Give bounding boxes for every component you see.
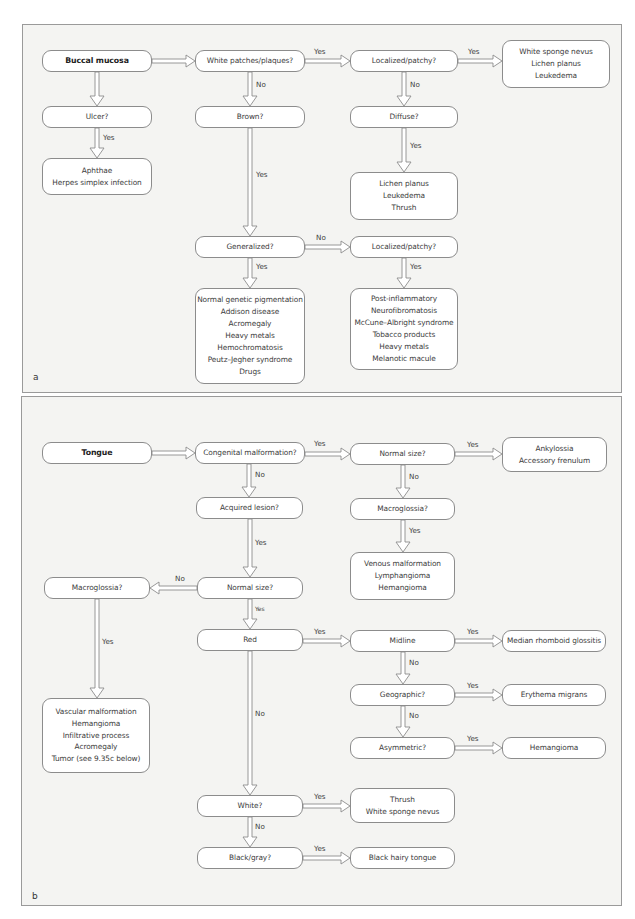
label-no: No xyxy=(256,80,266,89)
result-generalized: Normal genetic pigmentation Addison dise… xyxy=(195,288,305,384)
label-yes: Yes xyxy=(410,141,422,150)
label-yes: Yes xyxy=(467,440,479,449)
label-no: No xyxy=(175,574,185,583)
node-localized-mid: Localized/patchy? xyxy=(350,236,458,258)
node-acquired: Acquired lesion? xyxy=(196,497,303,519)
node-geographic: Geographic? xyxy=(350,684,455,706)
result-venous: Venous malformation Lymphangioma Hemangi… xyxy=(350,552,455,600)
result-thrush: Thrush White sponge nevus xyxy=(350,788,455,823)
node-localized-top: Localized/patchy? xyxy=(350,50,458,72)
label-yes: Yes xyxy=(314,47,326,56)
label-no: No xyxy=(255,709,265,718)
node-brown: Brown? xyxy=(195,106,305,128)
result-median-rhomboid: Median rhomboid glossitis xyxy=(502,630,606,652)
label-yes: Yes xyxy=(468,47,480,56)
result-black-hairy-tongue: Black hairy tongue xyxy=(350,847,455,869)
node-diffuse: Diffuse? xyxy=(350,106,458,128)
result-erythema-migrans: Erythema migrans xyxy=(502,684,606,706)
label-no: No xyxy=(255,470,265,479)
label-no: No xyxy=(409,658,419,667)
label-yes: Yes xyxy=(103,133,115,142)
label-yes: Yes xyxy=(102,637,114,646)
node-generalized: Generalized? xyxy=(195,236,305,258)
label-yes: Yes xyxy=(409,526,421,535)
label-yes: Yes xyxy=(314,627,326,636)
label-no: No xyxy=(316,233,326,242)
result-vascular: Vascular malformation Hemangioma Infiltr… xyxy=(42,698,150,773)
panel-label-b: b xyxy=(32,891,38,901)
label-no: No xyxy=(410,80,420,89)
panel-label-a: a xyxy=(33,372,39,382)
node-normal-size-top: Normal size? xyxy=(350,443,455,465)
result-ankylossia: Ankylossia Accessory frenulum xyxy=(502,437,607,472)
node-macroglossia-right: Macroglossia? xyxy=(350,498,455,520)
label-yes: Yes xyxy=(256,170,268,179)
result-localized: Post-inflammatory Neurofibromatosis McCu… xyxy=(350,288,458,370)
result-aphthae: Aphthae Herpes simplex infection xyxy=(42,158,152,195)
node-black-gray: Black/gray? xyxy=(197,847,303,869)
node-tongue: Tongue xyxy=(42,442,152,464)
label-yes: Yes xyxy=(314,844,326,853)
node-buccal-mucosa: Buccal mucosa xyxy=(42,50,152,72)
result-hemangioma: Hemangioma xyxy=(502,737,606,759)
result-lichen: Lichen planus Leukedema Thrush xyxy=(350,172,458,220)
label-yes: Yes xyxy=(255,605,265,612)
label-yes: Yes xyxy=(467,734,479,743)
node-normal-size-mid: Normal size? xyxy=(197,577,303,599)
label-no: No xyxy=(255,822,265,831)
node-white: White? xyxy=(197,795,303,817)
node-midline: Midline xyxy=(350,630,455,652)
label-no: No xyxy=(409,472,419,481)
node-macroglossia-left: Macroglossia? xyxy=(44,577,150,599)
node-red: Red xyxy=(197,629,303,651)
label-yes: Yes xyxy=(467,681,479,690)
result-white-sponge: White sponge nevus Lichen planus Leukede… xyxy=(502,40,610,88)
node-ulcer: Ulcer? xyxy=(42,106,152,128)
label-no: No xyxy=(409,711,419,720)
label-yes: Yes xyxy=(314,792,326,801)
label-yes: Yes xyxy=(314,439,326,448)
label-yes: Yes xyxy=(410,262,422,271)
node-asymmetric: Asymmetric? xyxy=(350,737,455,759)
label-yes: Yes xyxy=(467,627,479,636)
node-white-patches: White patches/plaques? xyxy=(195,50,305,72)
label-yes: Yes xyxy=(255,538,267,547)
label-yes: Yes xyxy=(256,262,268,271)
node-congenital: Congenital malformation? xyxy=(195,442,305,464)
